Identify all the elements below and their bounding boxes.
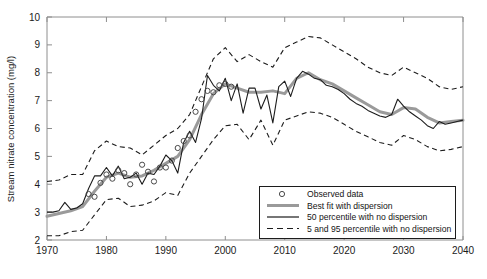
x-tick-label-1990: 1990: [155, 245, 178, 256]
y-tick-label-3: 3: [34, 207, 40, 218]
legend-label: 50 percentile with no dispersion: [307, 212, 428, 222]
y-tick-label-5: 5: [34, 151, 40, 162]
y-tick-label-7: 7: [34, 95, 40, 106]
figure-caption-fragment: [4, 269, 224, 278]
x-tick-label-2020: 2020: [333, 245, 356, 256]
legend-label: 5 and 95 percentile with no dispersion: [307, 224, 451, 234]
x-tick-label-2000: 2000: [214, 245, 237, 256]
y-tick-label-8: 8: [34, 67, 40, 78]
y-tick-label-9: 9: [34, 39, 40, 50]
y-tick-label-6: 6: [34, 123, 40, 134]
y-tick-label-4: 4: [34, 179, 40, 190]
chart-legend: Observed dataBest fit with dispersion50 …: [259, 186, 456, 239]
x-tick-label-1970: 1970: [36, 245, 59, 256]
x-tick-label-2030: 2030: [392, 245, 415, 256]
x-tick-label-2040: 2040: [452, 245, 475, 256]
y-tick-label-2: 2: [34, 235, 40, 246]
x-tick-label-1980: 1980: [95, 245, 118, 256]
legend-label: Best fit with dispersion: [307, 201, 393, 211]
y-tick-label-10: 10: [29, 12, 41, 23]
nitrate-concentration-figure: 2345678910 19701980199020002010202020302…: [0, 0, 487, 279]
x-tick-label-2010: 2010: [274, 245, 297, 256]
y-axis-label: Stream nitrate concentration (mg/l): [5, 56, 16, 202]
legend-label: Observed data: [307, 189, 364, 199]
